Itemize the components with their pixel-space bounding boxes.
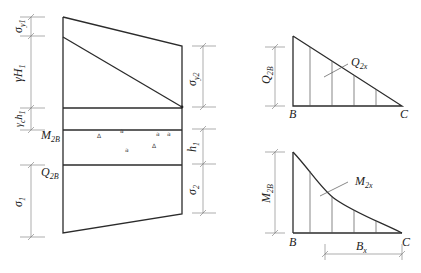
svg-text:a: a (167, 130, 171, 137)
label-h1: h1 (185, 142, 201, 152)
shear-triangle (293, 36, 402, 106)
label-Q2x: Q2x (351, 55, 368, 71)
shear-leader (324, 64, 348, 77)
svg-text:a: a (156, 130, 160, 137)
wall-pressure-panel: Δ a a a Δ a σy1 γH1 γch1 σ1 (11, 14, 216, 240)
svg-text:Δ: Δ (97, 132, 102, 139)
label-M2B-dim: M2B (259, 184, 275, 204)
pressure-diagonal (63, 37, 182, 107)
moment-curve (293, 152, 402, 233)
svg-text:Δ: Δ (152, 142, 157, 149)
aggregate-symbols: Δ a a a Δ a (97, 127, 171, 153)
label-M2x: M2x (354, 174, 373, 190)
point-B-bottom: B (289, 235, 297, 249)
label-gamma-H1: γH1 (11, 65, 27, 82)
point-C-bottom: C (402, 235, 411, 249)
label-sigma-1: σ1 (11, 197, 27, 207)
svg-text:a: a (120, 127, 124, 134)
svg-text:a: a (125, 146, 129, 153)
point-B-top: B (289, 107, 297, 121)
label-M2B: M2B (40, 128, 60, 144)
label-Q2B: Q2B (41, 165, 59, 181)
shear-diagram-panel: Q2x Q2B B C (259, 36, 409, 121)
label-gamma-c-h1: γch1 (13, 110, 27, 127)
load-diagram-figure: Δ a a a Δ a σy1 γH1 γch1 σ1 (0, 0, 421, 273)
point-C-top: C (400, 107, 409, 121)
joint-dot (181, 106, 184, 109)
moment-diagram-panel: M2x M2B B C Bx (259, 149, 411, 260)
label-Bx: Bx (356, 239, 367, 255)
wall-outline (63, 17, 182, 233)
label-sigma-2: σ2 (185, 185, 201, 195)
label-Q2B-dim: Q2B (259, 66, 275, 84)
label-sigma-y2: σy2 (185, 73, 201, 86)
label-sigma-y1: σy1 (11, 20, 27, 33)
